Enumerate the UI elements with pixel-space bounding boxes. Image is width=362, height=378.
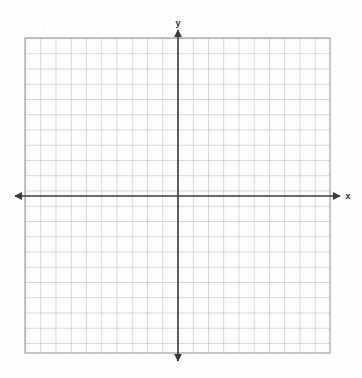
x-axis-label: x — [345, 191, 350, 201]
y-axis-label: y — [175, 18, 180, 28]
coordinate-plane-figure: y x — [0, 0, 362, 378]
coordinate-grid-screenshot: y x — [0, 0, 362, 378]
